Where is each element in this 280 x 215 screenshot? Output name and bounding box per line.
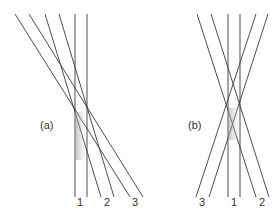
beam-crossing-diagram: (a) 1 2 3 (b) 3 1 2 — [0, 0, 280, 215]
overlap-shading-a — [75, 112, 87, 160]
beam-label-b-1: 1 — [231, 196, 237, 208]
beam-a-1 — [75, 14, 87, 197]
beam-label-b-2: 2 — [259, 196, 265, 208]
panel-b-label: (b) — [188, 119, 201, 131]
beam-label-a-1: 1 — [77, 196, 83, 208]
panel-a: (a) 1 2 3 — [15, 14, 143, 208]
beam-a-2 — [45, 14, 114, 197]
beam-a-3 — [15, 14, 143, 197]
panel-b: (b) 3 1 2 — [188, 14, 269, 208]
beam-label-a-3: 3 — [132, 196, 138, 208]
beam-label-b-3: 3 — [199, 196, 205, 208]
overlap-shading-b — [228, 108, 240, 140]
beam-b-2 — [197, 14, 269, 197]
beam-label-a-2: 2 — [104, 196, 110, 208]
panel-a-label: (a) — [40, 119, 53, 131]
beam-b-3 — [196, 14, 268, 197]
